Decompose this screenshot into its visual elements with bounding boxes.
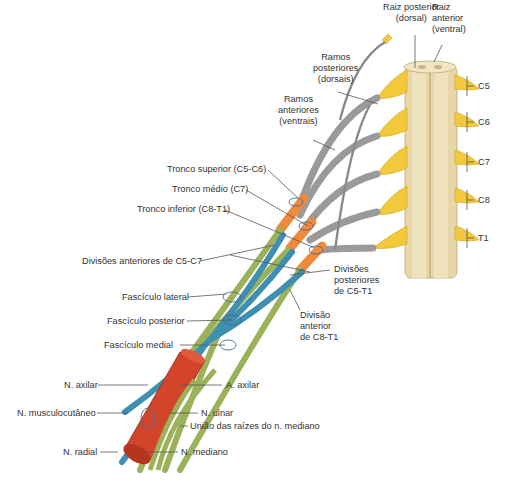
label-line: Raiz [432, 2, 466, 13]
label-line: (dorsais) [313, 74, 358, 85]
label-tronco-inferior: Tronco inferior (C8-T1) [137, 204, 230, 215]
label-line: Divisão [300, 310, 338, 321]
label-line: posteriores [313, 63, 358, 74]
segment-brackets [467, 76, 474, 248]
label-divisoes-anteriores: Divisões anteriores de C5-C7 [82, 256, 202, 267]
rootlets-left [373, 34, 407, 249]
brachial-plexus-diagram: Raiz posterior (dorsal) Raiz anterior (v… [0, 0, 512, 486]
label-ramos-posteriores: Ramos posteriores (dorsais) [313, 52, 358, 85]
label-fasciculo-posterior: Fascículo posterior [107, 316, 185, 327]
label-line: (ventrais) [278, 116, 319, 127]
label-a-axilar: A. axilar [226, 380, 259, 391]
label-tronco-superior: Tronco superior (C5-C6) [167, 164, 266, 175]
label-tronco-medio: Tronco médio (C7) [172, 184, 248, 195]
label-line: de C5-T1 [334, 286, 379, 297]
label-segment-c8: C8 [478, 195, 490, 206]
label-line: Divisões [334, 264, 379, 275]
label-uniao-raizes: União das raízes do n. mediano [190, 421, 320, 432]
label-fasciculo-medial: Fascículo medial [104, 340, 173, 351]
spinal-cord [404, 61, 457, 278]
label-line: Ramos [313, 52, 358, 63]
label-n-musculocutaneo: N. musculocutâneo [17, 408, 96, 419]
label-line: posteriores [334, 275, 379, 286]
label-segment-c7: C7 [478, 157, 490, 168]
label-line: anterior [300, 321, 338, 332]
label-line: anterior [432, 13, 466, 24]
label-line: anteriores [278, 105, 319, 116]
label-line: Ramos [278, 94, 319, 105]
label-n-axilar: N. axilar [64, 380, 98, 391]
label-n-mediano: N. mediano [181, 447, 228, 458]
label-line: de C8-T1 [300, 332, 338, 343]
label-fasciculo-lateral: Fascículo lateral [122, 292, 189, 303]
label-n-ulnar: N. ulnar [201, 408, 233, 419]
label-segment-c6: C6 [478, 117, 490, 128]
label-segment-t1: T1 [478, 233, 489, 244]
label-raiz-anterior: Raiz anterior (ventral) [432, 2, 466, 35]
label-divisao-anterior: Divisão anterior de C8-T1 [300, 310, 338, 343]
label-divisoes-posteriores: Divisões posteriores de C5-T1 [334, 264, 379, 297]
label-line: (ventral) [432, 24, 466, 35]
label-n-radial: N. radial [63, 447, 97, 458]
label-segment-c5: C5 [478, 81, 490, 92]
label-ramos-anteriores: Ramos anteriores (ventrais) [278, 94, 319, 127]
